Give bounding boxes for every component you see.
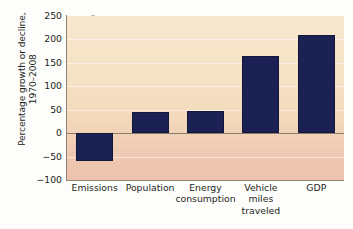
y-tick-label: 50 (28, 105, 62, 114)
y-tick-label: 0 (28, 128, 62, 137)
x-tick-label: GDP (284, 182, 349, 193)
bar (298, 35, 335, 133)
y-tick-label: 150 (28, 58, 62, 67)
y-tick-label: 250 (28, 11, 62, 20)
y-tick-label: 200 (28, 35, 62, 44)
bar (187, 111, 224, 133)
bar (132, 112, 169, 134)
bar-chart: Percentage growth or decline, 1970–2008 … (0, 0, 353, 229)
y-axis-tick-labels: 250200150100500−50−100 (28, 16, 62, 180)
y-tick-label: −100 (28, 175, 62, 184)
bar (242, 56, 279, 133)
bar (76, 133, 113, 161)
plot-area (67, 16, 344, 180)
y-tick-label: 100 (28, 82, 62, 91)
x-axis-line (67, 180, 344, 181)
y-tick-label: −50 (28, 152, 62, 161)
x-axis-tick-labels: EmissionsPopulationEnergy consumptionVeh… (67, 182, 353, 228)
